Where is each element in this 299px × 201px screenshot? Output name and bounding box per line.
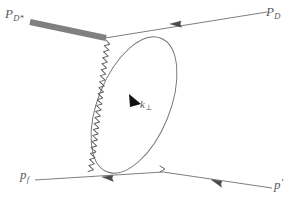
- label-outgoing-pf-base: p: [20, 167, 27, 182]
- label-incoming-dstar-sub: D*: [13, 13, 23, 23]
- figure-canvas: PD* PD pf p′ k⊥: [0, 0, 299, 201]
- label-outgoing-d-sub: D: [274, 11, 280, 21]
- label-outgoing-pprime-base: p: [274, 177, 281, 192]
- label-outgoing-pf-sub: f: [27, 174, 29, 184]
- gluon-wavy-line-tail: [160, 166, 165, 172]
- pprime-line: [163, 172, 272, 188]
- d-meson-line: [105, 12, 267, 38]
- pf-line: [35, 172, 163, 180]
- label-outgoing-d: PD: [266, 3, 280, 20]
- label-incoming-dstar-base: P: [5, 6, 13, 21]
- gluon-wavy-line: [75, 40, 124, 173]
- label-loop-momentum: k⊥: [140, 95, 152, 112]
- label-loop-momentum-sub: ⊥: [145, 103, 152, 112]
- label-outgoing-d-base: P: [266, 4, 274, 19]
- label-outgoing-pprime: p′: [274, 176, 283, 192]
- label-outgoing-pprime-mark: ′: [281, 176, 283, 188]
- pf-line-arrow-icon: [102, 175, 113, 181]
- label-outgoing-pf: pf: [20, 166, 29, 183]
- dstar-propagator-thick-line: [30, 22, 106, 38]
- label-incoming-dstar: PD*: [5, 5, 24, 22]
